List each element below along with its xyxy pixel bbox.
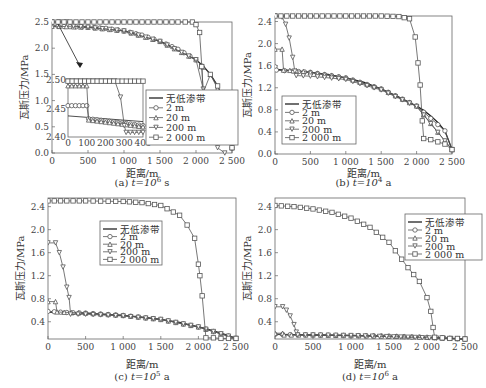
x-tick-label: 1 000 (110, 342, 136, 352)
x-tick-label: 1 500 (148, 342, 174, 352)
y-tick-label: 2.4 (258, 17, 273, 27)
y-axis-label: 瓦斯压力/MPa (241, 236, 253, 302)
x-tick-label: 1 500 (376, 342, 402, 352)
y-tick-label: 1.2 (258, 271, 272, 281)
y-tick-label: 2.0 (31, 225, 46, 235)
x-tick-label: 2 500 (219, 156, 245, 166)
figure-canvas: 05001 0001 5002 0002 5000.00.51.01.52.02… (0, 0, 486, 388)
y-tick-label: 0.8 (31, 294, 46, 304)
series-无低渗带 (48, 312, 236, 338)
x-tick-label: 0 (272, 342, 278, 352)
x-tick-label: 2 000 (414, 342, 440, 352)
y-tick-label: 2.4 (258, 202, 273, 212)
legend: 无低渗带2 m20 m200 m2 000 m (282, 96, 356, 144)
y-tick-label: 2.0 (258, 39, 273, 49)
y-tick-label: 1.2 (31, 271, 45, 281)
x-tick-label: 500 (79, 156, 96, 166)
series-200-m (273, 305, 467, 342)
y-tick-label: 1.2 (258, 83, 272, 93)
y-tick-label: 2.5 (35, 17, 50, 27)
legend-entry: 2 000 m (120, 254, 159, 265)
y-axis-label: 瓦斯压力/MPa (14, 236, 26, 302)
svg-text:2.40: 2.40 (46, 132, 66, 142)
y-tick-label: 2.0 (258, 225, 273, 235)
panel-caption: (a) t=106 s (115, 176, 170, 188)
legend: 无低渗带2 m20 m200 m2 000 m (405, 214, 482, 260)
y-tick-label: 1.6 (31, 248, 46, 258)
x-tick-label: 1 500 (147, 156, 173, 166)
y-tick-label: 0.0 (258, 149, 273, 159)
svg-text:2.50: 2.50 (46, 75, 66, 85)
x-tick-label: 2 000 (183, 156, 209, 166)
svg-text:100: 100 (78, 138, 95, 148)
chart-panel-b: 05001 0001 5002 0002 5000.00.40.81.21.62… (241, 14, 465, 188)
x-tick-label: 2 500 (439, 157, 465, 167)
x-tick-label: 500 (77, 342, 94, 352)
y-tick-label: 0.8 (258, 294, 273, 304)
x-tick-label: 2 000 (404, 157, 430, 167)
x-tick-label: 500 (304, 342, 321, 352)
y-tick-label: 0.8 (258, 105, 273, 115)
y-tick-label: 0.4 (258, 317, 273, 327)
chart-panel-d: 05001 0001 5002 0002 5000.40.81.21.62.02… (241, 198, 482, 382)
y-tick-label: 2.4 (31, 202, 46, 212)
panel-caption: (d) t=106 a (342, 370, 398, 382)
series-2-000-m (46, 199, 238, 341)
x-axis-label: 距离/m (126, 358, 159, 370)
y-axis-label: 瓦斯压力/MPa (18, 55, 30, 121)
y-tick-label: 1.6 (258, 248, 273, 258)
x-tick-label: 500 (302, 157, 319, 167)
x-tick-label: 1 000 (333, 157, 359, 167)
svg-text:300: 300 (116, 138, 133, 148)
y-axis-label: 瓦斯压力/MPa (241, 52, 253, 118)
y-tick-label: 2.0 (35, 43, 50, 53)
x-axis-label: 距离/m (354, 358, 387, 370)
x-tick-label: 2 500 (452, 342, 478, 352)
series-20-m (46, 299, 238, 340)
x-tick-label: 1 000 (338, 342, 364, 352)
x-tick-label: 2 500 (223, 342, 249, 352)
legend-entry: 2 000 m (302, 132, 341, 143)
x-tick-label: 0 (272, 157, 278, 167)
x-tick-label: 0 (49, 156, 55, 166)
y-tick-label: 0.5 (35, 122, 50, 132)
series-2-m (46, 309, 238, 340)
panel-caption: (b) t=104 a (335, 176, 391, 188)
y-tick-label: 0.4 (258, 127, 273, 137)
x-tick-label: 1 000 (111, 156, 137, 166)
y-tick-label: 0.4 (31, 317, 46, 327)
svg-text:200: 200 (97, 138, 114, 148)
inset-plot: 01002003004002.402.452.50 (46, 75, 152, 148)
x-tick-label: 2 000 (186, 342, 212, 352)
chart-panel-c: 05001 0001 5002 0002 5000.40.81.21.62.02… (14, 198, 249, 382)
svg-text:2.45: 2.45 (46, 104, 66, 114)
x-tick-label: 0 (45, 342, 51, 352)
x-tick-label: 1 500 (368, 157, 394, 167)
legend-entry: 2 000 m (166, 132, 205, 143)
legend-entry: 2 000 m (425, 249, 464, 260)
y-tick-label: 1.6 (258, 61, 273, 71)
y-tick-label: 0.0 (35, 148, 50, 158)
svg-text:0: 0 (65, 138, 71, 148)
panel-caption: (c) t=105 a (114, 370, 169, 382)
legend: 无低渗带2 m20 m200 m2 000 m (146, 90, 238, 145)
chart-panel-a: 05001 0001 5002 0002 5000.00.51.01.52.02… (18, 17, 245, 188)
legend: 无低渗带2 m20 m200 m2 000 m (100, 221, 162, 265)
